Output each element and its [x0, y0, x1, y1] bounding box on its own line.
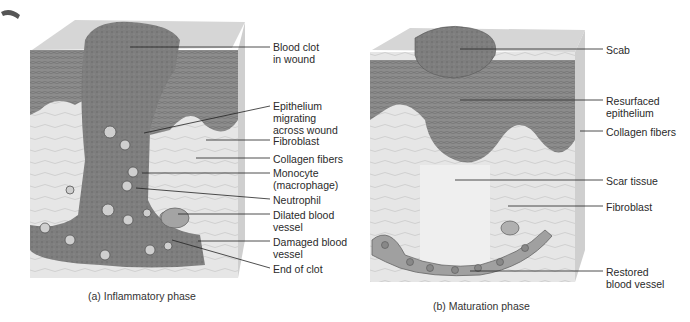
label-collagen-fibers-b: Collagen fibers	[606, 126, 676, 138]
label-scab: Scab	[606, 44, 630, 56]
label-epithelium-migrating: Epithelium migrating across wound	[273, 100, 338, 136]
label-restored-vessel: Restored blood vessel	[606, 266, 664, 290]
label-dilated-vessel: Dilated blood vessel	[273, 209, 334, 233]
label-end-of-clot: End of clot	[273, 263, 323, 275]
panel-a-art	[30, 20, 245, 278]
wound-healing-figure: Blood clot in wound Epithelium migrating…	[0, 0, 690, 322]
diagram-art	[0, 0, 690, 322]
caption-inflammatory-phase: (a) Inflammatory phase	[88, 290, 196, 302]
label-collagen-fibers-a: Collagen fibers	[273, 153, 343, 165]
label-fibroblast-b: Fibroblast	[606, 201, 652, 213]
label-scar-tissue: Scar tissue	[606, 175, 658, 187]
label-neutrophil: Neutrophil	[273, 194, 321, 206]
label-fibroblast-a: Fibroblast	[273, 135, 319, 147]
label-damaged-vessel: Damaged blood vessel	[273, 236, 347, 260]
label-resurfaced-epithelium: Resurfaced epithelium	[606, 95, 660, 119]
caption-maturation-phase: (b) Maturation phase	[433, 300, 530, 312]
label-monocyte: Monocyte (macrophage)	[273, 167, 338, 191]
panel-b-art	[370, 26, 585, 282]
label-blood-clot: Blood clot in wound	[273, 41, 319, 65]
